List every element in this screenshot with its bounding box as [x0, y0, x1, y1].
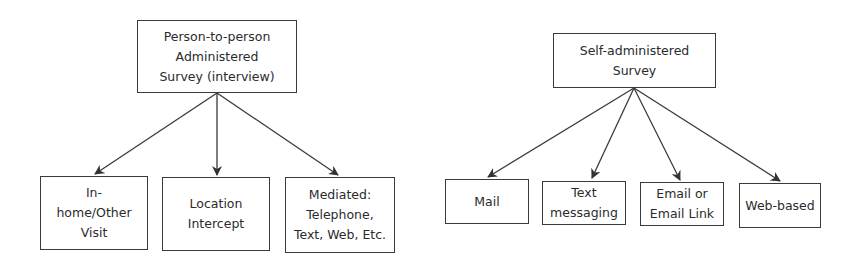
node-text-line: Email Link: [650, 204, 714, 224]
node-text-line: messaging: [550, 203, 618, 223]
node-text-messaging: Text messaging: [542, 181, 626, 225]
node-in-home-visit: In- home/Other Visit: [40, 176, 148, 250]
node-location-intercept: Location Intercept: [162, 177, 270, 251]
arrow-root1-child3: [217, 93, 338, 175]
node-text-line: Text: [550, 183, 618, 203]
node-text-line: In-: [56, 183, 131, 203]
node-web-based: Web-based: [739, 183, 821, 228]
node-text-line: Survey (interview): [159, 67, 274, 87]
node-text-line: Text, Web, Etc.: [294, 225, 386, 245]
arrow-root2-child1: [488, 88, 634, 177]
node-text-line: Self-administered: [580, 41, 690, 61]
node-person-to-person-survey: Person-to-person Administered Survey (in…: [137, 20, 297, 93]
arrow-root1-child1: [95, 93, 217, 174]
node-text-line: Location: [188, 194, 244, 214]
node-mail: Mail: [445, 179, 529, 224]
node-text-line: Web-based: [745, 196, 815, 216]
node-email: Email or Email Link: [640, 182, 724, 226]
node-text-line: Administered: [159, 47, 274, 67]
node-text-line: Telephone,: [294, 205, 386, 225]
node-text-line: home/Other: [56, 203, 131, 223]
node-text-line: Person-to-person: [159, 27, 274, 47]
node-text-line: Survey: [580, 61, 690, 81]
node-text-line: Intercept: [188, 214, 244, 234]
node-self-administered-survey: Self-administered Survey: [553, 33, 716, 88]
node-mediated: Mediated: Telephone, Text, Web, Etc.: [285, 177, 395, 253]
arrow-root2-child4: [634, 88, 780, 181]
node-text-line: Email or: [650, 184, 714, 204]
node-text-line: Mediated:: [294, 185, 386, 205]
node-text-line: Mail: [474, 192, 499, 212]
node-text-line: Visit: [56, 223, 131, 243]
arrow-root2-child3: [634, 88, 680, 180]
